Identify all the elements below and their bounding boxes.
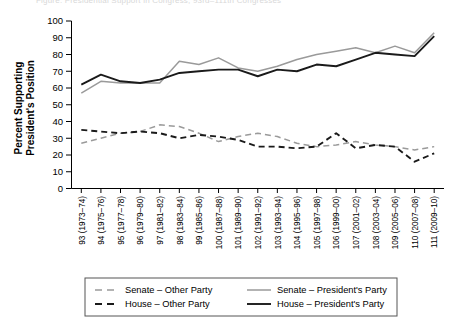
series-line-house_other [81,130,434,162]
legend-label-house_president: House – President's Party [277,299,385,309]
series-line-senate_president [81,33,434,93]
cut-off-header: Figure: Presidential Support in Congress… [36,0,281,5]
y-tick-label: 20 [52,149,63,160]
y-tick-label: 10 [52,166,63,177]
x-tick-label: 105 (1997–98) [313,196,322,250]
y-axis-label: Percent Supporting President's Position [13,60,36,156]
figure-container: Figure: Presidential Support in Congress… [0,0,459,324]
y-tick-label: 60 [52,82,63,93]
y-axis-label-line2: President's Position [25,60,36,156]
x-tick-label: 102 (1991–92) [254,196,263,250]
x-axis-ticks: 93 (1973–74)94 (1975–76)95 (1977–78)96 (… [78,189,440,250]
y-tick-label: 80 [52,49,63,60]
x-tick-label: 95 (1977–78) [117,196,126,245]
legend-label-senate_president: Senate – President's Party [277,285,387,295]
x-tick-label: 108 (2003–04) [372,196,381,250]
legend-frame [85,278,397,316]
y-tick-label: 40 [52,116,63,127]
x-tick-label: 101 (1989–90) [234,196,243,250]
x-tick-label: 103 (1993–94) [274,196,283,250]
x-tick-label: 94 (1975–76) [97,196,106,245]
y-tick-label: 30 [52,133,63,144]
series-layer [81,33,434,162]
x-tick-label: 100 (1987–88) [215,196,224,250]
y-tick-label: 50 [52,99,63,110]
y-tick-label: 70 [52,66,63,77]
series-line-house_president [81,36,434,85]
y-axis-ticks: 0102030405060708090100 [47,15,71,194]
x-tick-label: 110 (2007–08) [411,196,420,249]
y-tick-label: 0 [58,183,63,194]
x-tick-label: 93 (1973–74) [78,196,87,245]
x-tick-label: 109 (2005–06) [391,196,400,250]
x-tick-label: 111 (2009–10) [430,196,439,248]
x-tick-label: 106 (1999–00) [332,196,341,250]
legend-label-senate_other: Senate – Other Party [125,285,213,295]
x-tick-label: 107 (2001–02) [352,196,361,250]
chart-legend: Senate – Other PartySenate – President's… [85,278,397,316]
y-tick-label: 100 [47,15,63,26]
x-tick-label: 99 (1985–86) [195,196,204,245]
x-tick-label: 96 (1979–80) [136,196,145,245]
y-tick-label: 90 [52,32,63,43]
x-tick-label: 98 (1983–84) [176,196,185,245]
y-axis-label-line1: Percent Supporting [13,62,24,155]
x-tick-label: 97 (1981–82) [156,196,165,245]
line-chart: Percent Supporting President's Position … [0,0,459,324]
legend-label-house_other: House – Other Party [125,299,210,309]
x-tick-label: 104 (1995–96) [293,196,302,250]
